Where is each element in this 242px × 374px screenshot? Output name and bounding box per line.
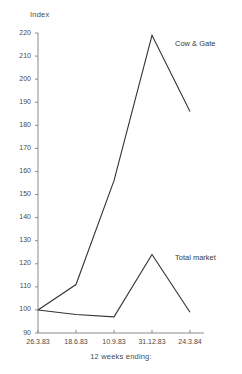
series-lines bbox=[38, 35, 190, 317]
series-line-total-market bbox=[38, 255, 190, 317]
plot-area bbox=[0, 0, 242, 374]
series-label-cow-and-gate: Cow & Gate bbox=[175, 39, 215, 48]
x-axis-caption: 12 weeks ending: bbox=[0, 352, 242, 361]
line-chart: Index 2202102001901801701601501401301201… bbox=[0, 0, 242, 374]
series-label-total-market: Total market bbox=[175, 253, 216, 262]
series-line-cow-gate bbox=[38, 35, 190, 310]
